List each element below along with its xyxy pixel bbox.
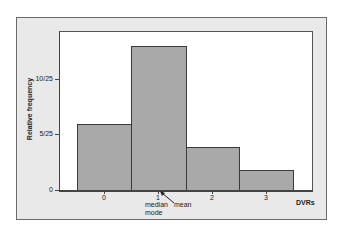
- y-axis-title: Relative frequency: [26, 78, 33, 140]
- y-tick-0: [55, 190, 59, 191]
- x-axis-line: [59, 190, 313, 192]
- x-tick-label-0: 0: [98, 194, 110, 201]
- x-tick-label-2: 2: [206, 194, 218, 201]
- x-tick-label-3: 3: [260, 194, 272, 201]
- bar-2: [186, 147, 240, 191]
- bar-3: [239, 170, 294, 191]
- mean-arrow-icon: [150, 188, 180, 208]
- bar-0: [77, 124, 132, 191]
- y-tick-label-0: 0: [23, 186, 53, 193]
- y-tick-5: [55, 134, 59, 135]
- mode-label: mode: [145, 209, 163, 217]
- x-axis-title: DVRs: [296, 199, 315, 206]
- y-tick-10: [55, 79, 59, 80]
- bar-1: [131, 46, 187, 191]
